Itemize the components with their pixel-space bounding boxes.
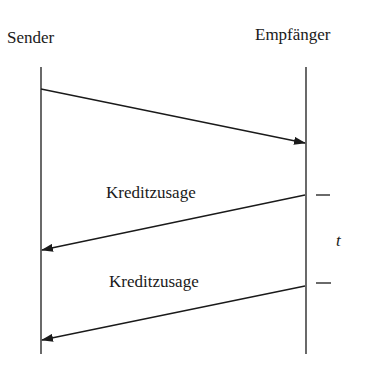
message-label-1: Kreditzusage	[106, 183, 196, 203]
message-arrow-1	[41, 89, 305, 143]
message-arrow-2	[42, 195, 305, 250]
message-arrow-3	[42, 286, 305, 340]
message-label-2: Kreditzusage	[109, 272, 199, 292]
time-axis-label: t	[336, 231, 341, 251]
